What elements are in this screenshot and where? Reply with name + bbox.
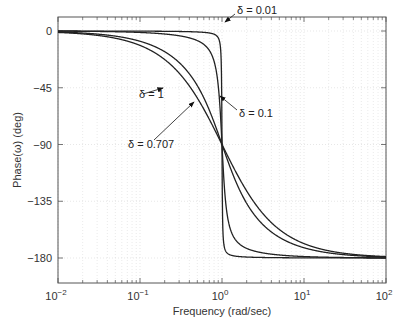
x-axis-label: Frequency (rad/sec) — [173, 305, 271, 317]
annotation-label: δ = 1 — [139, 88, 164, 100]
annotation-label: δ = 0.01 — [237, 4, 277, 16]
phase-plot: 10−210−1100101102 0−45−90−135−180 δ = 0.… — [0, 0, 408, 323]
series-line — [58, 32, 386, 256]
annotation-arrow — [154, 102, 194, 140]
x-tick-label: 102 — [376, 288, 393, 302]
y-tick-labels: 0−45−90−135−180 — [27, 25, 52, 264]
annotations: δ = 0.01δ = 0.1δ = 1δ = 0.707 — [128, 4, 277, 150]
y-tick-label: −45 — [33, 82, 52, 94]
y-tick-label: −135 — [27, 195, 52, 207]
annotation-label: δ = 0.707 — [128, 138, 174, 150]
x-tick-label: 10−2 — [45, 288, 67, 302]
y-axis-label: Phase(ω) (deg) — [11, 112, 23, 188]
y-tick-label: −90 — [33, 139, 52, 151]
y-tick-label: −180 — [27, 252, 52, 264]
x-tick-label: 10−1 — [127, 288, 149, 302]
annotation-arrow — [220, 96, 237, 110]
y-tick-label: 0 — [46, 25, 52, 37]
annotation-label: δ = 0.1 — [239, 107, 273, 119]
x-tick-label: 101 — [294, 288, 311, 302]
x-tick-labels: 10−210−1100101102 — [45, 288, 393, 302]
x-tick-label: 100 — [212, 288, 229, 302]
annotation-arrow — [225, 14, 235, 22]
